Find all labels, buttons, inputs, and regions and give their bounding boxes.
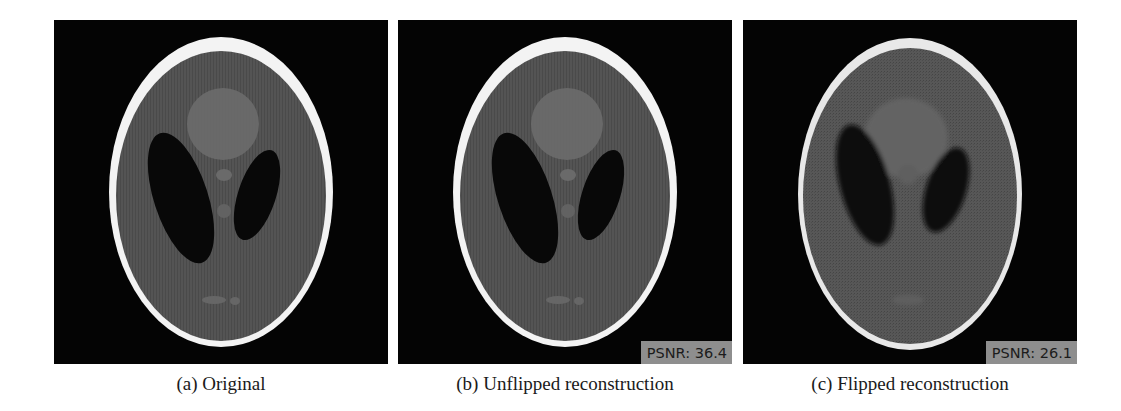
phantom-image-flipped — [743, 20, 1077, 364]
panel-unflipped: PSNR: 36.4 — [398, 20, 732, 364]
caption-unflipped: (b) Unflipped reconstruction — [398, 373, 732, 395]
phantom-image-original — [54, 20, 388, 364]
caption-flipped: (c) Flipped reconstruction — [743, 373, 1077, 395]
psnr-badge: PSNR: 36.4 — [641, 341, 732, 365]
panel-original — [54, 20, 388, 364]
phantom-image-unflipped — [398, 20, 732, 364]
panel-flipped: PSNR: 26.1 — [743, 20, 1077, 364]
psnr-badge: PSNR: 26.1 — [986, 341, 1077, 365]
caption-original: (a) Original — [54, 373, 388, 395]
